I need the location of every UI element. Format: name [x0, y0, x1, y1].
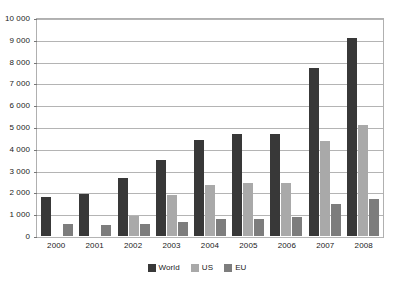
bar-group — [114, 20, 152, 236]
x-axis: 200020012002200320042005200620072008 — [37, 241, 383, 250]
bar-world-2004 — [194, 140, 204, 236]
bar-eu-2008 — [369, 199, 379, 236]
y-axis-tick-mark — [34, 150, 37, 151]
bar-us-2005 — [243, 183, 253, 236]
y-axis-tick-mark — [34, 19, 37, 20]
bar-us-2007 — [320, 141, 330, 236]
x-axis-tick-label: 2003 — [152, 241, 190, 250]
gridline — [37, 237, 383, 238]
legend-label: EU — [235, 264, 246, 272]
y-axis-tick-mark — [34, 193, 37, 194]
legend-item-eu[interactable]: EU — [224, 264, 246, 272]
bar-world-2006 — [270, 134, 280, 236]
y-axis-tick-mark — [34, 41, 37, 42]
legend-swatch-icon — [148, 264, 156, 272]
y-axis-tick-mark — [34, 237, 37, 238]
legend-item-world[interactable]: World — [148, 264, 180, 272]
bar-group — [76, 20, 114, 236]
x-axis-tick-label: 2008 — [345, 241, 383, 250]
bar-world-2001 — [79, 194, 89, 237]
bar-eu-2004 — [216, 219, 226, 236]
x-axis-tick-label: 2007 — [306, 241, 344, 250]
bar-group — [229, 20, 267, 236]
y-axis-tick-label: 2 000 — [0, 189, 30, 197]
y-axis-tick-label: 4 000 — [0, 146, 30, 154]
y-axis: 10 0009 0008 0007 0006 0005 0004 0003 00… — [0, 0, 33, 292]
legend-item-us[interactable]: US — [191, 264, 213, 272]
bar-world-2005 — [232, 134, 242, 236]
bar-world-2003 — [156, 160, 166, 236]
bar-chart: 10 0009 0008 0007 0006 0005 0004 0003 00… — [0, 0, 394, 292]
bar-eu-2006 — [292, 217, 302, 236]
bar-world-2007 — [309, 68, 319, 236]
x-axis-tick-label: 2000 — [37, 241, 75, 250]
x-axis-tick-label: 2005 — [229, 241, 267, 250]
bar-us-2008 — [358, 125, 368, 236]
bar-groups — [38, 20, 382, 236]
legend-swatch-icon — [224, 264, 232, 272]
y-axis-tick-mark — [34, 128, 37, 129]
bar-group — [153, 20, 191, 236]
bar-group — [344, 20, 382, 236]
y-axis-tick-label: 1 000 — [0, 211, 30, 219]
y-axis-tick-label: 0 — [0, 233, 30, 241]
y-axis-tick-label: 5 000 — [0, 124, 30, 132]
x-axis-tick-label: 2004 — [191, 241, 229, 250]
y-axis-tick-mark — [34, 63, 37, 64]
bar-eu-2002 — [140, 224, 150, 236]
chart-legend: WorldUSEU — [0, 264, 394, 272]
y-axis-tick-mark — [34, 172, 37, 173]
bar-us-2002 — [129, 216, 139, 236]
bar-eu-2003 — [178, 222, 188, 236]
y-axis-tick-label: 7 000 — [0, 80, 30, 88]
plot-area — [36, 18, 384, 238]
bar-group — [38, 20, 76, 236]
y-axis-tick-mark — [34, 84, 37, 85]
bar-group — [191, 20, 229, 236]
bar-world-2002 — [118, 178, 128, 236]
y-axis-tick-label: 8 000 — [0, 59, 30, 67]
bar-world-2008 — [347, 38, 357, 236]
y-axis-tick-label: 9 000 — [0, 37, 30, 45]
x-axis-tick-label: 2006 — [268, 241, 306, 250]
bar-group — [306, 20, 344, 236]
bar-eu-2000 — [63, 224, 73, 236]
bar-us-2004 — [205, 185, 215, 236]
y-axis-tick-label: 3 000 — [0, 168, 30, 176]
legend-swatch-icon — [191, 264, 199, 272]
legend-label: US — [202, 264, 213, 272]
x-axis-tick-label: 2002 — [114, 241, 152, 250]
bar-group — [267, 20, 305, 236]
x-axis-tick-label: 2001 — [75, 241, 113, 250]
legend-label: World — [159, 264, 180, 272]
y-axis-tick-mark — [34, 215, 37, 216]
bar-eu-2005 — [254, 219, 264, 236]
bar-us-2003 — [167, 195, 177, 236]
bar-eu-2001 — [101, 225, 111, 236]
y-axis-tick-mark — [34, 106, 37, 107]
bar-eu-2007 — [331, 204, 341, 236]
bar-world-2000 — [41, 197, 51, 236]
y-axis-tick-label: 6 000 — [0, 102, 30, 110]
bar-us-2006 — [281, 183, 291, 236]
y-axis-tick-label: 10 000 — [0, 15, 30, 23]
